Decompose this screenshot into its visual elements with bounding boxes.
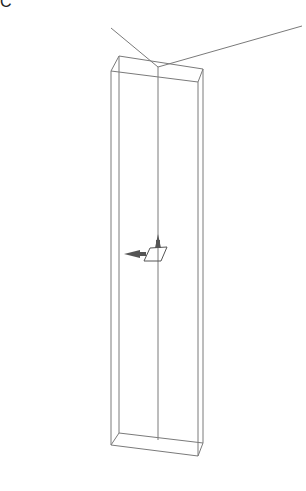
3d-viewport[interactable]: C (0, 0, 306, 491)
gizmo-plane-handle-icon[interactable] (144, 247, 167, 261)
light-line-right (158, 26, 302, 67)
translate-gizmo[interactable] (124, 234, 167, 261)
box-top-face (111, 56, 203, 82)
gizmo-arrow-left-icon[interactable] (124, 250, 140, 258)
viewport-canvas[interactable] (0, 0, 306, 491)
box-bottom-face (111, 433, 203, 456)
